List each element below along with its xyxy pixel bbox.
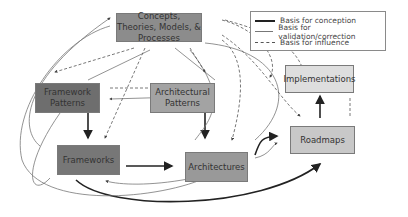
legend: Basis for conception Basis for validatio… xyxy=(250,11,386,51)
node-frameworks: Frameworks xyxy=(57,145,120,175)
legend-label: Basis for influence xyxy=(280,38,349,47)
thick-solid-line-icon xyxy=(255,20,275,22)
node-architectures: Architectures xyxy=(185,152,248,182)
node-concepts-label: Concepts, Theories, Models, & Processes xyxy=(117,11,201,44)
node-implementations-label: Implementations xyxy=(284,74,356,85)
legend-item-validation: Basis for validation/correction xyxy=(255,26,381,37)
node-roadmaps-label: Roadmaps xyxy=(300,135,345,146)
node-framework-patterns-label: Framework Patterns xyxy=(36,87,99,109)
dashed-line-icon xyxy=(255,42,275,43)
node-concepts: Concepts, Theories, Models, & Processes xyxy=(116,13,202,42)
thin-solid-line-icon xyxy=(255,31,273,32)
node-architectures-label: Architectures xyxy=(188,162,244,173)
node-roadmaps: Roadmaps xyxy=(290,126,355,154)
node-architectural-patterns: Architectural Patterns xyxy=(150,83,215,113)
node-frameworks-label: Frameworks xyxy=(63,155,114,166)
node-framework-patterns: Framework Patterns xyxy=(35,83,100,113)
node-architectural-patterns-label: Architectural Patterns xyxy=(151,87,214,109)
node-implementations: Implementations xyxy=(285,65,354,93)
